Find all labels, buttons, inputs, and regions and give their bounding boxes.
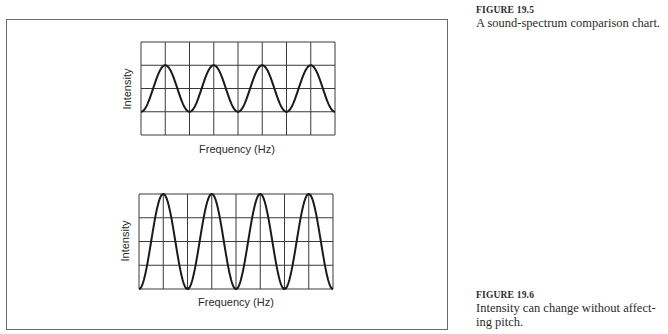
x-axis-label: Frequency (Hz) [198, 296, 274, 308]
chart-grid [139, 194, 333, 289]
chart-bottom-intensity-change: Intensity Frequency (Hz) [119, 194, 333, 308]
chart-top-sound-spectrum: Intensity Frequency (Hz) [121, 42, 335, 155]
charts-canvas: Intensity Frequency (Hz) Intensity Frequ… [0, 0, 668, 334]
y-axis-label: Intensity [119, 220, 131, 261]
chart-grid [141, 42, 335, 135]
figure-number: FIGURE 19.6 [476, 289, 666, 301]
figure-caption-text-line1: Intensity can change without affect- [476, 301, 666, 315]
figure-number: FIGURE 19.5 [476, 4, 666, 16]
figure-caption-text: A sound-spectrum comparison chart. [476, 16, 666, 30]
figure-caption-19-6: FIGURE 19.6 Intensity can change without… [476, 289, 666, 329]
figure-caption-text-line2: ing pitch. [476, 315, 666, 329]
y-axis-label: Intensity [121, 68, 133, 109]
figure-caption-19-5: FIGURE 19.5 A sound-spectrum comparison … [476, 4, 666, 30]
x-axis-label: Frequency (Hz) [199, 143, 275, 155]
